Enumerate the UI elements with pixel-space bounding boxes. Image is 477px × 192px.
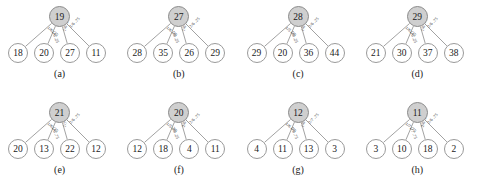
tree-node-leaf: 13	[34, 139, 54, 159]
tree-node-leaf: 3	[366, 139, 386, 159]
tree-figure: 1/6 .251/6 .251/6 .251/6 .751918202711(a…	[0, 0, 477, 192]
panel-caption: (c)	[239, 68, 358, 79]
panel-caption: (b)	[119, 68, 238, 79]
tree-node-root: 19	[49, 6, 70, 27]
tree-node-leaf: 3	[325, 139, 345, 159]
tree-node-leaf: 22	[60, 139, 80, 159]
tree-row: 1/6 .251/6 .751/7 .752/6 .752120132212(e…	[0, 96, 477, 192]
tree-node-leaf: 27	[60, 43, 80, 63]
tree-node-leaf: 21	[366, 43, 386, 63]
tree-node-root: 11	[407, 102, 428, 123]
tree-panel-c: 1/5 .251/6 .251/6 .252/6 .252829203644(c…	[239, 0, 358, 96]
tree-node-leaf: 10	[392, 139, 412, 159]
panel-caption: (a)	[0, 68, 119, 79]
tree-node-leaf: 2	[444, 139, 464, 159]
tree-node-leaf: 20	[34, 43, 54, 63]
tree-node-root: 28	[288, 6, 309, 27]
tree-node-leaf: 11	[273, 139, 293, 159]
tree-node-leaf: 11	[86, 43, 106, 63]
tree-panel-h: 1/7 .751/7 .752/6 .252/6 .7511310182(h)	[358, 96, 477, 192]
tree-node-leaf: 4	[247, 139, 267, 159]
panel-caption: (f)	[119, 164, 238, 175]
panel-caption: (d)	[358, 68, 477, 79]
tree-panel-a: 1/6 .251/6 .251/6 .251/6 .751918202711(a…	[0, 0, 119, 96]
tree-node-leaf: 36	[299, 43, 319, 63]
panel-caption: (g)	[239, 164, 358, 175]
tree-node-root: 12	[288, 102, 309, 123]
tree-node-leaf: 38	[444, 43, 464, 63]
tree-node-leaf: 18	[418, 139, 438, 159]
tree-panel-e: 1/6 .251/6 .751/7 .752/6 .752120132212(e…	[0, 96, 119, 192]
panel-caption: (h)	[358, 164, 477, 175]
tree-node-leaf: 12	[86, 139, 106, 159]
tree-node-leaf: 13	[299, 139, 319, 159]
tree-panel-g: 1/6 .751/6 .751/6 .752/7 .7512411133(g)	[239, 96, 358, 192]
tree-row: 1/6 .251/6 .251/6 .251/6 .751918202711(a…	[0, 0, 477, 96]
tree-panel-d: 1/6 .251/6 .251/6 .752/6 .752921303738(d…	[358, 0, 477, 96]
tree-node-root: 29	[407, 6, 428, 27]
tree-node-leaf: 29	[247, 43, 267, 63]
tree-panel-b: 1/6 .251/6 .251/6 .752/6 .252728352629(b…	[119, 0, 238, 96]
tree-node-leaf: 44	[325, 43, 345, 63]
tree-node-leaf: 20	[8, 139, 28, 159]
tree-node-leaf: 18	[8, 43, 28, 63]
tree-node-leaf: 30	[392, 43, 412, 63]
tree-node-leaf: 20	[273, 43, 293, 63]
tree-node-root: 21	[49, 102, 70, 123]
tree-panel-f: 1/5 .252/6 .252/6 .752/6 .75201218411(f)	[119, 96, 238, 192]
panel-caption: (e)	[0, 164, 119, 175]
tree-node-leaf: 37	[418, 43, 438, 63]
